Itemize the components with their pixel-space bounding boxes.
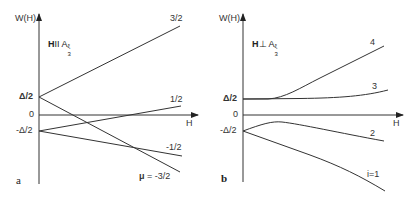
panel-a-x-label: H: [186, 119, 193, 128]
panel-a-ytick-zero: 0: [29, 110, 34, 119]
panel-b-curve-1: [243, 131, 385, 191]
panel-a-curve-label-3-2: 3/2: [170, 14, 183, 23]
panel-a-letter: a: [16, 175, 21, 186]
panel-b-curve-3: [243, 90, 388, 99]
panel-a-y-label: W(H): [15, 14, 36, 23]
panel-b-ytick-zero: 0: [233, 110, 238, 119]
panel-a-curve-label-minus-1-2: -1/2: [166, 143, 182, 152]
panel-b-curve-4: [243, 46, 384, 99]
panel-a-curve-1-2: [39, 106, 181, 131]
panel-b-letter: b: [221, 173, 227, 184]
panel-a-field-label: HII Aξ3: [48, 40, 73, 49]
field-sub: 3: [68, 51, 71, 57]
panel-b-ytick-minus-delta-half: -Δ/2: [220, 126, 237, 135]
panel-b-curve-label-1: i=1: [367, 170, 379, 179]
mu-symbol: μ: [139, 171, 145, 181]
panel-b-curve-label-2: 2: [370, 129, 375, 138]
panel-b-curve-label-3: 3: [372, 82, 377, 91]
field-relation: II A: [55, 39, 68, 49]
panel-a-ytick-delta-half: Δ/2: [19, 92, 33, 101]
field-sup: ξ: [68, 43, 71, 49]
mu-value: = -3/2: [147, 171, 170, 181]
panel-b-curve-label-4: 4: [370, 38, 375, 47]
panel-a-curve-label-1-2: 1/2: [170, 95, 183, 104]
panel-a-ytick-minus-delta-half: -Δ/2: [16, 126, 33, 135]
figure-canvas: [0, 0, 418, 198]
panel-a-curve-label-minus-3-2: μ = -3/2: [139, 172, 170, 181]
panel-b-x-label: H: [393, 119, 400, 128]
field-sub: 3: [275, 51, 278, 57]
field-sup: ξ: [275, 43, 278, 49]
panel-b-y-label: W(H): [219, 14, 240, 23]
panel-b-field-label: H⊥ Aξ3: [252, 40, 280, 49]
panel-b-ytick-delta-half: Δ/2: [223, 94, 237, 103]
panel-a-curve-3-2: [39, 26, 180, 97]
field-relation: ⊥ A: [259, 39, 275, 49]
